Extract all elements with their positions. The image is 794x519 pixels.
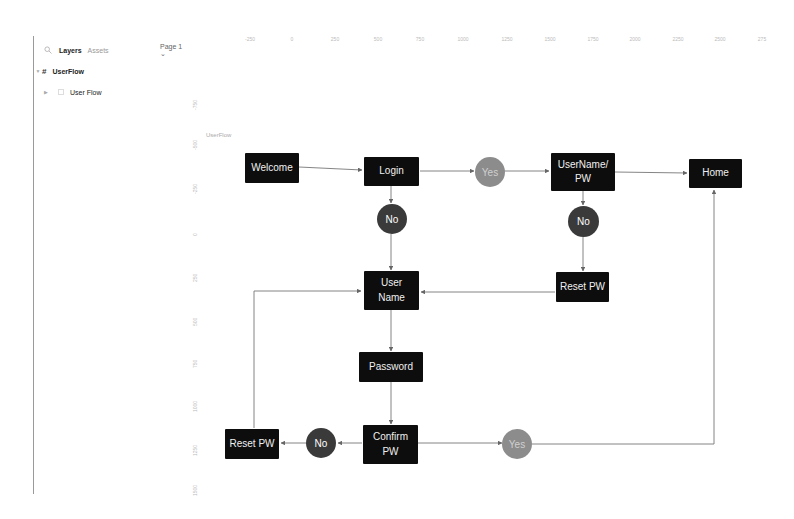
decision-yes-confirm[interactable]: Yes: [502, 429, 532, 459]
decision-no-confirm[interactable]: No: [306, 428, 336, 458]
decision-yes-login[interactable]: Yes: [475, 157, 505, 187]
node-reset-pw-bottom[interactable]: Reset PW: [225, 429, 279, 459]
node-user-name[interactable]: User Name: [364, 271, 419, 310]
node-confirm-pw[interactable]: Confirm PW: [363, 425, 418, 464]
decision-no-username-pw[interactable]: No: [568, 206, 599, 237]
decision-no-login[interactable]: No: [377, 204, 407, 234]
node-reset-pw-top[interactable]: Reset PW: [556, 272, 609, 302]
node-username-pw[interactable]: UserName/ PW: [551, 153, 615, 191]
design-app: Layers Assets Page 1 ⌄ ▼ # UserFlow ▶ Us…: [0, 0, 794, 519]
node-password[interactable]: Password: [359, 352, 423, 382]
node-welcome[interactable]: Welcome: [245, 153, 299, 183]
node-login[interactable]: Login: [364, 157, 419, 186]
node-home[interactable]: Home: [689, 159, 742, 188]
